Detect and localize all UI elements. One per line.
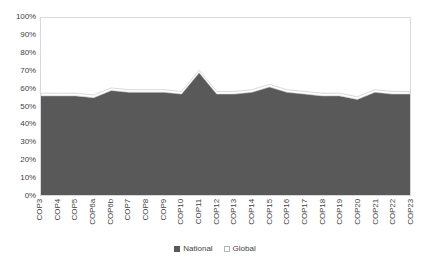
x-axis-tick: COP10 [177, 199, 185, 225]
x-axis-tick: COP5 [71, 199, 79, 220]
x-axis-tick: COP7 [124, 199, 132, 220]
legend-entry-national[interactable]: National [174, 245, 212, 253]
y-axis-tick: 0% [0, 192, 36, 200]
plot-svg [41, 18, 410, 195]
x-axis-tick: COP21 [372, 199, 380, 225]
y-axis-tick: 60% [0, 85, 36, 93]
y-axis-tick: 100% [0, 13, 36, 21]
y-axis-tick: 90% [0, 31, 36, 39]
series-layer [41, 70, 410, 195]
y-axis: 0%10%20%30%40%50%60%70%80%90%100% [0, 17, 36, 196]
y-axis-tick: 10% [0, 174, 36, 182]
legend-swatch-national-icon [174, 246, 180, 252]
x-axis-tick: COP17 [301, 199, 309, 225]
x-axis-tick: COP11 [195, 199, 203, 224]
y-axis-tick: 50% [0, 103, 36, 111]
x-axis-tick: COP3 [36, 199, 44, 220]
x-axis-tick: COP23 [407, 199, 415, 225]
x-axis-tick: COP12 [213, 199, 221, 225]
x-axis-tick: COP19 [336, 199, 344, 225]
legend-swatch-global-icon [224, 246, 230, 252]
legend-entry-global[interactable]: Global [224, 245, 256, 253]
y-axis-tick: 20% [0, 156, 36, 164]
legend-label: Global [233, 245, 256, 253]
x-axis-tick: COP18 [319, 199, 327, 225]
x-axis-tick: COP13 [230, 199, 238, 225]
y-axis-tick: 80% [0, 49, 36, 57]
area-chart: 0%10%20%30%40%50%60%70%80%90%100% COP3CO… [0, 0, 430, 267]
x-axis-tick: COP16 [283, 199, 291, 225]
x-axis-tick: COP15 [266, 199, 274, 225]
x-axis-tick: COP22 [389, 199, 397, 225]
y-axis-tick: 30% [0, 138, 36, 146]
y-axis-tick: 70% [0, 67, 36, 75]
x-axis-tick: COP4 [54, 199, 62, 220]
y-axis-tick: 40% [0, 120, 36, 128]
x-axis-tick: COP20 [354, 199, 362, 225]
x-axis-tick: COP6b [107, 199, 115, 225]
x-axis: COP3COP4COP5COP6aCOP6bCOP7COP8COP9COP10C… [40, 197, 411, 243]
x-axis-tick: COP8 [142, 199, 150, 220]
plot-area [40, 17, 411, 196]
chart-legend: NationalGlobal [0, 245, 430, 253]
x-axis-tick: COP6a [89, 199, 97, 225]
legend-label: National [183, 245, 212, 253]
x-axis-tick: COP9 [160, 199, 168, 220]
x-axis-tick: COP14 [248, 199, 256, 225]
